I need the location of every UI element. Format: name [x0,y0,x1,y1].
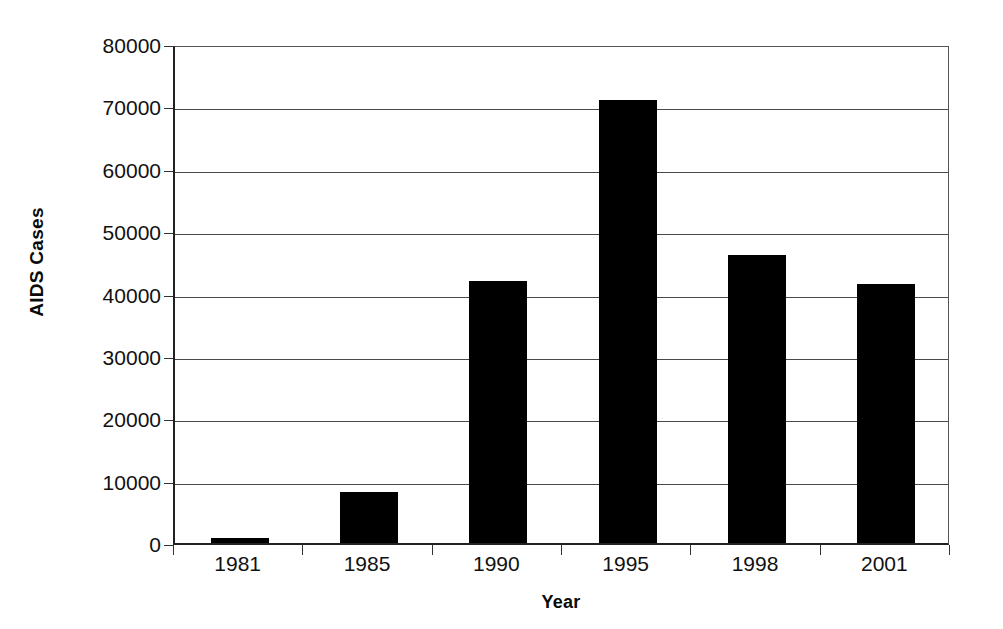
bar-1998 [728,255,786,543]
gridline-30000 [175,359,948,360]
y-tick-label-80000: 80000 [41,35,161,56]
x-tick-mark-end [949,545,950,555]
bar-chart: AIDS Cases 01000020000300004000050000600… [0,0,1003,629]
y-tick-mark-80000 [164,46,173,47]
y-tick-mark-40000 [164,296,173,297]
x-tick-mark-5 [820,545,821,555]
x-tick-label-1985: 1985 [302,552,431,576]
y-tick-label-20000: 20000 [41,409,161,430]
x-tick-mark-3 [561,545,562,555]
x-tick-label-1981: 1981 [173,552,302,576]
y-tick-label-30000: 30000 [41,347,161,368]
x-tick-label-2001: 2001 [820,552,949,576]
gridline-20000 [175,421,948,422]
y-tick-label-50000: 50000 [41,222,161,243]
gridline-70000 [175,109,948,110]
x-tick-mark-1 [302,545,303,555]
y-tick-label-40000: 40000 [41,285,161,306]
x-tick-label-1995: 1995 [561,552,690,576]
y-tick-mark-50000 [164,233,173,234]
bar-1981 [211,538,269,543]
gridline-50000 [175,234,948,235]
y-tick-mark-30000 [164,358,173,359]
y-tick-label-0: 0 [41,534,161,555]
bar-1990 [469,281,527,543]
y-tick-label-70000: 70000 [41,97,161,118]
x-tick-mark-2 [432,545,433,555]
plot-area [173,46,949,545]
x-tick-mark-4 [690,545,691,555]
gridline-40000 [175,297,948,298]
x-tick-label-1990: 1990 [432,552,561,576]
bar-1995 [599,100,657,543]
bar-2001 [857,284,915,543]
x-tick-label-1998: 1998 [690,552,819,576]
bar-1985 [340,492,398,543]
x-axis-title: Year [173,592,949,613]
gridline-10000 [175,484,948,485]
y-tick-mark-60000 [164,171,173,172]
y-tick-mark-0 [164,545,173,546]
y-tick-label-60000: 60000 [41,160,161,181]
gridline-60000 [175,172,948,173]
y-tick-label-10000: 10000 [41,472,161,493]
y-tick-mark-20000 [164,420,173,421]
x-tick-mark-0 [173,545,174,555]
y-tick-mark-70000 [164,108,173,109]
y-tick-mark-10000 [164,483,173,484]
y-axis-title: AIDS Cases [26,172,48,352]
